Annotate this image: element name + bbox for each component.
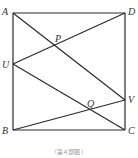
label-u: U xyxy=(2,59,10,70)
segment-uc xyxy=(13,64,125,130)
figure-caption: （第4题图） xyxy=(0,147,138,156)
segment-bv xyxy=(13,100,125,130)
label-q: Q xyxy=(87,98,95,109)
geometry-diagram: A D B C U V P Q xyxy=(0,0,138,158)
label-d: D xyxy=(127,6,136,17)
label-a: A xyxy=(1,6,9,17)
label-p: P xyxy=(54,33,61,44)
label-b: B xyxy=(2,125,8,136)
label-c: C xyxy=(128,125,135,136)
label-v: V xyxy=(128,94,136,105)
